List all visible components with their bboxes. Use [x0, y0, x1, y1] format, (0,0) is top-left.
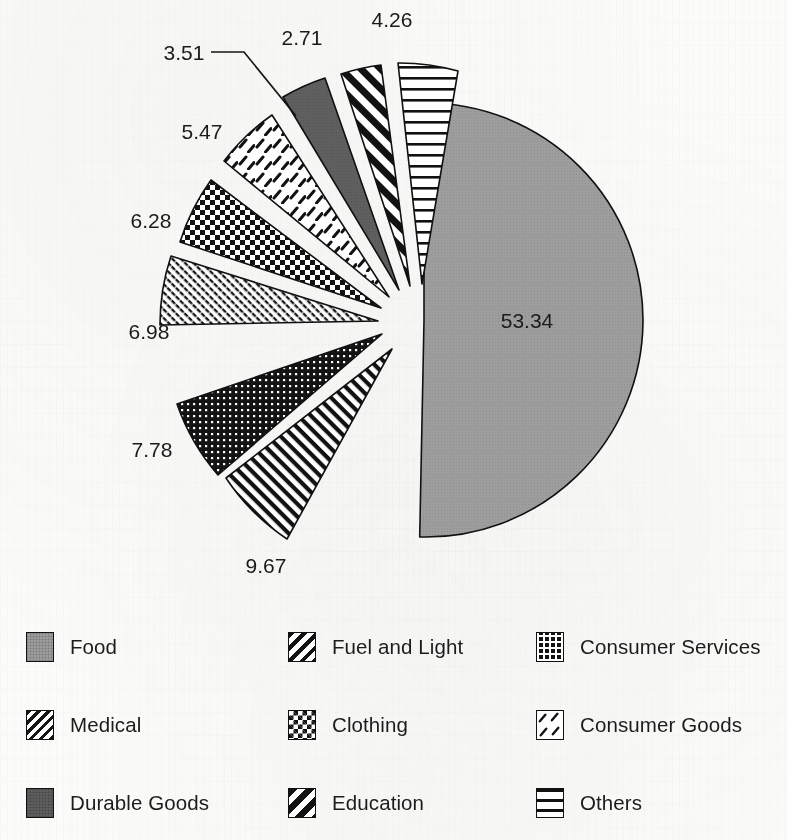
- legend-label-consumer-services: Consumer Services: [580, 635, 761, 659]
- legend-swatch-food-icon: [26, 632, 54, 662]
- pie-chart-page: 53.34 9.67 7.78 6.98 6.28 5.47 3.51 2.71…: [0, 0, 788, 840]
- value-label-consumer-goods: 5.47: [182, 120, 223, 143]
- legend-item-clothing[interactable]: Clothing: [288, 686, 536, 764]
- value-label-food: 53.34: [501, 309, 554, 332]
- leader-line-durable-goods: [211, 52, 296, 116]
- value-label-others: 4.26: [372, 8, 413, 31]
- pie-chart-figure: 53.34 9.67 7.78 6.98 6.28 5.47 3.51 2.71…: [0, 0, 788, 600]
- legend-label-consumer-goods: Consumer Goods: [580, 713, 742, 737]
- value-label-consumer-services: 7.78: [132, 438, 173, 461]
- legend-item-durable-goods[interactable]: Durable Goods: [26, 764, 288, 840]
- legend-swatch-durable-goods-icon: [26, 788, 54, 818]
- legend-item-others[interactable]: Others: [536, 764, 784, 840]
- legend-item-medical[interactable]: Medical: [26, 686, 288, 764]
- legend-item-food[interactable]: Food: [26, 608, 288, 686]
- legend-swatch-education-icon: [288, 788, 316, 818]
- legend-label-fuel-and-light: Fuel and Light: [332, 635, 463, 659]
- legend-item-consumer-services[interactable]: Consumer Services: [536, 608, 784, 686]
- legend-label-clothing: Clothing: [332, 713, 408, 737]
- value-label-medical: 6.98: [129, 320, 170, 343]
- legend-swatch-consumer-goods-icon: [536, 710, 564, 740]
- legend-swatch-fuel-and-light-icon: [288, 632, 316, 662]
- legend-item-education[interactable]: Education: [288, 764, 536, 840]
- value-label-education: 2.71: [282, 26, 323, 49]
- legend-label-food: Food: [70, 635, 117, 659]
- legend-swatch-medical-icon: [26, 710, 54, 740]
- value-label-durable-goods: 3.51: [164, 41, 205, 64]
- legend-label-education: Education: [332, 791, 424, 815]
- legend-swatch-others-icon: [536, 788, 564, 818]
- chart-legend: Food Fuel and Light Consumer Services Me…: [0, 608, 788, 840]
- value-label-fuel-and-light: 9.67: [246, 554, 287, 577]
- legend-swatch-clothing-icon: [288, 710, 316, 740]
- value-label-clothing: 6.28: [131, 209, 172, 232]
- consumer-goods-dash-glyph: [537, 711, 563, 739]
- legend-item-fuel-and-light[interactable]: Fuel and Light: [288, 608, 536, 686]
- legend-item-consumer-goods[interactable]: Consumer Goods: [536, 686, 784, 764]
- legend-label-medical: Medical: [70, 713, 141, 737]
- legend-label-others: Others: [580, 791, 642, 815]
- pie-chart-svg: 53.34 9.67 7.78 6.98 6.28 5.47 3.51 2.71…: [0, 0, 788, 600]
- legend-swatch-consumer-services-icon: [536, 632, 564, 662]
- legend-label-durable-goods: Durable Goods: [70, 791, 209, 815]
